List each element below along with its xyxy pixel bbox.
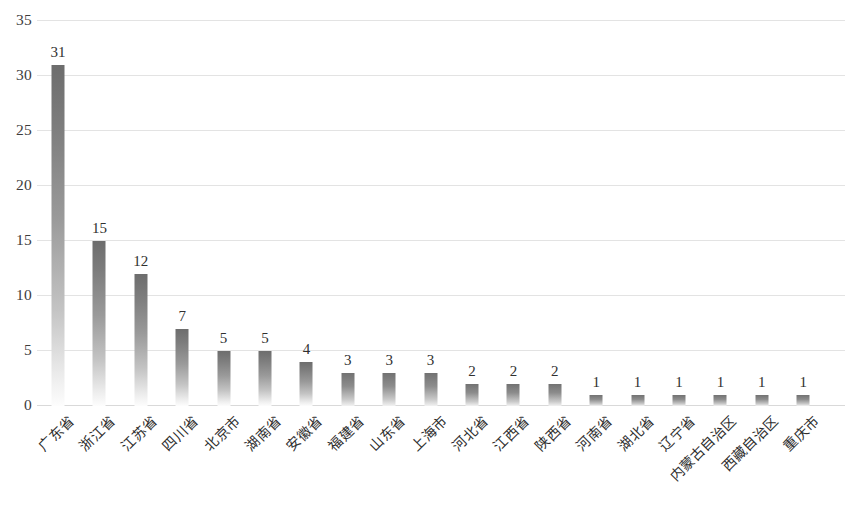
bar-value-label: 12: [133, 254, 148, 269]
bar[interactable]: [590, 395, 603, 406]
bar-value-label: 5: [220, 331, 228, 346]
bar-value-label: 1: [634, 375, 642, 390]
bar[interactable]: [134, 274, 147, 406]
bar[interactable]: [176, 329, 189, 406]
bar-group[interactable]: 1: [741, 20, 782, 406]
x-tick-label: 重庆市: [782, 414, 823, 455]
x-tick-label: 广东省: [37, 414, 78, 455]
bar[interactable]: [424, 373, 437, 406]
x-tick-label: 湖南省: [244, 414, 285, 455]
bar-value-label: 2: [551, 364, 559, 379]
bar-group[interactable]: 1: [700, 20, 741, 406]
bar-value-label: 3: [344, 353, 352, 368]
bar-group[interactable]: 1: [783, 20, 824, 406]
bar[interactable]: [217, 351, 230, 406]
x-tick-label: 河南省: [575, 414, 616, 455]
x-tick-label: 江苏省: [119, 414, 160, 455]
bar-chart: 35302520151050 3115127554333222111111 广东…: [0, 0, 853, 519]
y-tick-label: 20: [2, 177, 32, 193]
x-tick-label: 江西省: [492, 414, 533, 455]
bar-value-label: 1: [758, 375, 766, 390]
bar[interactable]: [258, 351, 271, 406]
bar-value-label: 1: [675, 375, 683, 390]
bar-value-label: 5: [261, 331, 269, 346]
bar-group[interactable]: 5: [244, 20, 285, 406]
bars-layer: 3115127554333222111111: [37, 20, 845, 406]
bar[interactable]: [507, 384, 520, 406]
bar[interactable]: [631, 395, 644, 406]
bar[interactable]: [548, 384, 561, 406]
bar-value-label: 15: [92, 221, 107, 236]
x-tick-label: 上海市: [409, 414, 450, 455]
bar-group[interactable]: 3: [410, 20, 451, 406]
y-tick-label: 10: [2, 287, 32, 303]
bar-value-label: 3: [427, 353, 435, 368]
bar[interactable]: [672, 395, 685, 406]
bar-group[interactable]: 4: [286, 20, 327, 406]
y-tick-label: 5: [2, 342, 32, 358]
x-tick-label: 湖北省: [616, 414, 657, 455]
x-tick-label: 山东省: [368, 414, 409, 455]
bar[interactable]: [300, 362, 313, 406]
bar-value-label: 1: [717, 375, 725, 390]
bar[interactable]: [383, 373, 396, 406]
bar-group[interactable]: 1: [576, 20, 617, 406]
y-tick-label: 15: [2, 232, 32, 248]
x-tick-label: 安徽省: [285, 414, 326, 455]
bar[interactable]: [714, 395, 727, 406]
bar-group[interactable]: 7: [162, 20, 203, 406]
bar-group[interactable]: 3: [369, 20, 410, 406]
y-tick-label: 35: [2, 12, 32, 28]
bar-value-label: 31: [50, 45, 65, 60]
bar-value-label: 2: [468, 364, 476, 379]
bar-group[interactable]: 12: [120, 20, 161, 406]
bar-value-label: 4: [303, 342, 311, 357]
x-tick-label: 河北省: [451, 414, 492, 455]
bar-group[interactable]: 1: [658, 20, 699, 406]
x-tick-label: 福建省: [326, 414, 367, 455]
bar[interactable]: [797, 395, 810, 406]
bar-group[interactable]: 3: [327, 20, 368, 406]
x-tick-label: 北京市: [202, 414, 243, 455]
y-axis: 35302520151050: [0, 20, 32, 405]
y-tick-label: 30: [2, 67, 32, 83]
bar-group[interactable]: 1: [617, 20, 658, 406]
x-tick-label: 陕西省: [533, 414, 574, 455]
bar-group[interactable]: 15: [79, 20, 120, 406]
y-tick-label: 25: [2, 122, 32, 138]
bar[interactable]: [465, 384, 478, 406]
y-tick-label: 0: [2, 397, 32, 413]
x-tick-label: 四川省: [161, 414, 202, 455]
bar-value-label: 3: [385, 353, 393, 368]
bar-value-label: 7: [178, 309, 186, 324]
x-tick-label: 浙江省: [78, 414, 119, 455]
bar-group[interactable]: 31: [37, 20, 78, 406]
bar-value-label: 1: [799, 375, 807, 390]
bar[interactable]: [755, 395, 768, 406]
bar[interactable]: [93, 241, 106, 406]
bar-group[interactable]: 2: [493, 20, 534, 406]
bar[interactable]: [341, 373, 354, 406]
bar-group[interactable]: 2: [534, 20, 575, 406]
bar-value-label: 1: [592, 375, 600, 390]
bar-value-label: 2: [510, 364, 518, 379]
bar[interactable]: [51, 65, 64, 406]
bar-group[interactable]: 2: [451, 20, 492, 406]
bar-group[interactable]: 5: [203, 20, 244, 406]
x-axis-labels: 广东省浙江省江苏省四川省北京市湖南省安徽省福建省山东省上海市河北省江西省陕西省河…: [37, 406, 845, 519]
